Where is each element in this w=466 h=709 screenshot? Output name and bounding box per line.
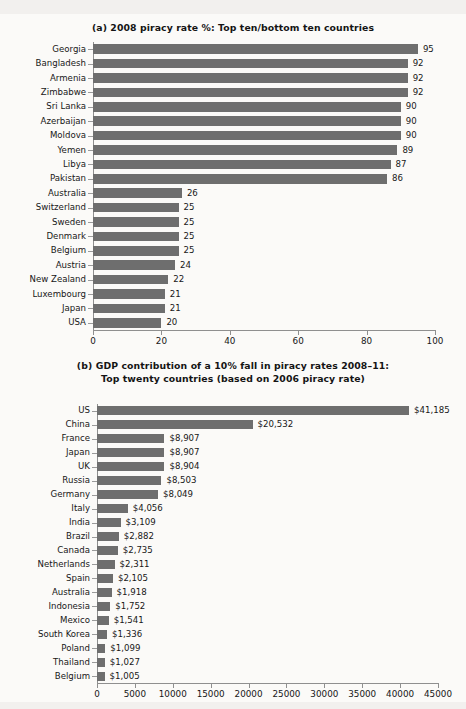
bar	[97, 574, 113, 583]
category-label: Belgium	[51, 246, 86, 255]
bar-value-label: $1,336	[112, 630, 142, 639]
bar-row: Canada$2,735	[97, 546, 438, 555]
bar-row: Thailand$1,027	[97, 658, 438, 667]
bar-row: Poland$1,099	[97, 644, 438, 653]
category-label: Sri Lanka	[46, 102, 86, 111]
bar-value-label: 22	[173, 275, 184, 284]
bar-value-label: 90	[406, 102, 417, 111]
bar-row: Germany$8,049	[97, 490, 438, 499]
bar	[97, 532, 119, 541]
category-label: Armenia	[50, 74, 86, 83]
x-tick-label: 10000	[159, 689, 187, 699]
x-tick-mark	[97, 683, 98, 688]
bar-row: UK$8,904	[97, 462, 438, 471]
bar	[97, 658, 105, 667]
x-tick-mark	[362, 683, 363, 688]
category-label: Indonesia	[48, 602, 90, 611]
category-label: Germany	[51, 490, 91, 499]
bar-value-label: $8,907	[169, 434, 199, 443]
bar-value-label: 95	[423, 45, 434, 54]
bar	[97, 490, 158, 499]
category-label: Italy	[71, 504, 90, 513]
bar-row: Spain$2,105	[97, 574, 438, 583]
bar	[97, 644, 105, 653]
bar-row: Austria24	[93, 260, 435, 270]
bar-row: Libya87	[93, 160, 435, 170]
category-label: Bangladesh	[36, 59, 86, 68]
bar	[97, 630, 107, 639]
bar	[97, 518, 121, 527]
category-label: UK	[78, 462, 90, 471]
x-tick-label: 20000	[235, 689, 263, 699]
bar	[93, 260, 175, 270]
chart-b-plot: US$41,185China$20,532France$8,907Japan$8…	[97, 404, 438, 683]
bar	[93, 102, 401, 112]
chart-b-x-ticks: 0500010000150002000025000300003500040000…	[97, 683, 438, 705]
bar-value-label: $8,907	[169, 448, 199, 457]
bar-row: South Korea$1,336	[97, 630, 438, 639]
bar-value-label: 89	[402, 146, 413, 155]
bar	[93, 145, 397, 155]
bar	[97, 602, 110, 611]
x-tick-mark	[298, 330, 299, 335]
category-label: France	[61, 434, 90, 443]
category-label: Sweden	[52, 218, 86, 227]
category-label: Netherlands	[38, 560, 90, 569]
bar-row: Russia$8,503	[97, 476, 438, 485]
bar-value-label: 25	[184, 246, 195, 255]
bar	[93, 188, 182, 198]
bar-value-label: 21	[170, 290, 181, 299]
x-tick-label: 0	[94, 689, 100, 699]
bar-value-label: $1,752	[115, 602, 145, 611]
x-tick-mark	[211, 683, 212, 688]
chart-a-title: (a) 2008 piracy rate %: Top ten/bottom t…	[0, 22, 466, 35]
bar-row: Mexico$1,541	[97, 616, 438, 625]
bar-value-label: 92	[413, 74, 424, 83]
bar-row: India$3,109	[97, 518, 438, 527]
category-label: Luxembourg	[32, 290, 86, 299]
bar-value-label: $2,882	[124, 532, 154, 541]
x-tick-label: 45000	[424, 689, 452, 699]
category-label: Libya	[63, 160, 86, 169]
bar-row: Yemen89	[93, 145, 435, 155]
bar	[93, 203, 179, 213]
bar	[97, 560, 115, 569]
bar-value-label: 21	[170, 304, 181, 313]
x-tick-mark	[93, 330, 94, 335]
x-tick-mark	[435, 330, 436, 335]
x-tick-mark	[173, 683, 174, 688]
bar-row: Azerbaijan90	[93, 116, 435, 126]
bar-row: Netherlands$2,311	[97, 560, 438, 569]
bar	[93, 160, 391, 170]
category-label: Australia	[52, 588, 90, 597]
bar-row: Japan$8,907	[97, 448, 438, 457]
x-tick-label: 40	[224, 336, 235, 346]
bar-row: Australia$1,918	[97, 588, 438, 597]
category-label: USA	[68, 318, 86, 327]
x-tick-mark	[324, 683, 325, 688]
category-label: Japan	[62, 304, 86, 313]
bar-value-label: $1,918	[117, 588, 147, 597]
category-label: Denmark	[47, 232, 87, 241]
x-tick-label: 30000	[310, 689, 338, 699]
bar-row: US$41,185	[97, 406, 438, 415]
category-label: Japan	[66, 448, 90, 457]
bar	[97, 420, 253, 429]
x-tick-label: 80	[361, 336, 372, 346]
bar-value-label: $8,049	[163, 490, 193, 499]
bar	[97, 504, 128, 513]
figure-page: (a) 2008 piracy rate %: Top ten/bottom t…	[0, 0, 466, 709]
chart-a-x-ticks: 020406080100	[93, 330, 435, 352]
bar-value-label: $41,185	[414, 406, 450, 415]
bar	[97, 616, 109, 625]
bar	[93, 73, 408, 83]
category-label: China	[65, 420, 90, 429]
bar-value-label: $4,056	[133, 504, 163, 513]
bar-value-label: 86	[392, 174, 403, 183]
chart-b-bars: US$41,185China$20,532France$8,907Japan$8…	[97, 404, 438, 683]
bar	[97, 448, 164, 457]
bar-row: Moldova90	[93, 131, 435, 141]
category-label: India	[69, 518, 90, 527]
bar	[93, 232, 179, 242]
bar	[93, 304, 165, 314]
